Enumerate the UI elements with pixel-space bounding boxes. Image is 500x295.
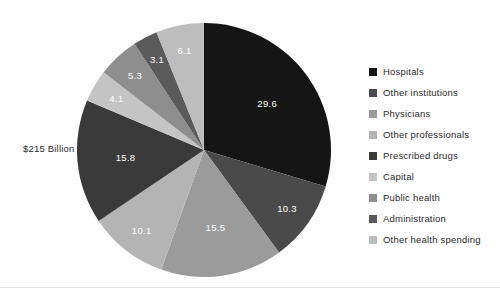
legend-item-label: Prescribed drugs xyxy=(383,150,458,161)
pie-slice-value: 3.1 xyxy=(150,54,164,65)
legend-swatch-icon xyxy=(369,215,377,223)
pie-slice-value: 5.3 xyxy=(128,70,142,81)
legend-item[interactable]: Hospitals xyxy=(369,61,497,82)
legend-swatch-icon xyxy=(369,194,377,202)
legend-item[interactable]: Prescribed drugs xyxy=(369,145,497,166)
legend-swatch-icon xyxy=(369,152,377,160)
total-callout: $215 Billion xyxy=(23,143,75,154)
legend-item[interactable]: Physicians xyxy=(369,103,497,124)
pie-slice-value: 6.1 xyxy=(178,45,192,56)
pie-slice-value: 10.3 xyxy=(277,203,297,214)
legend-item[interactable]: Capital xyxy=(369,166,497,187)
legend-swatch-icon xyxy=(369,68,377,76)
chart-canvas: 29.610.315.510.115.84.15.33.16.1 $215 Bi… xyxy=(0,0,500,295)
pie-slice-group xyxy=(77,23,331,277)
legend-swatch-icon xyxy=(369,173,377,181)
legend-swatch-icon xyxy=(369,131,377,139)
legend-item[interactable]: Other professionals xyxy=(369,124,497,145)
pie-slice-value: 15.8 xyxy=(116,152,136,163)
legend-swatch-icon xyxy=(369,89,377,97)
pie-slice-value: 15.5 xyxy=(206,222,226,233)
legend-item-label: Hospitals xyxy=(383,66,424,77)
legend-swatch-icon xyxy=(369,236,377,244)
legend-item[interactable]: Other health spending xyxy=(369,229,497,250)
legend-item-label: Physicians xyxy=(383,108,430,119)
legend-item[interactable]: Public health xyxy=(369,187,497,208)
legend-item-label: Public health xyxy=(383,192,440,203)
legend: HospitalsOther institutionsPhysiciansOth… xyxy=(369,61,497,250)
legend-item-label: Other health spending xyxy=(383,234,481,245)
legend-item[interactable]: Other institutions xyxy=(369,82,497,103)
pie-slice-value: 4.1 xyxy=(109,93,123,104)
pie-svg: 29.610.315.510.115.84.15.33.16.1 xyxy=(77,23,331,277)
pie-slice-value: 29.6 xyxy=(257,98,277,109)
legend-item[interactable]: Administration xyxy=(369,208,497,229)
legend-item-label: Administration xyxy=(383,213,446,224)
pie-slice-value: 10.1 xyxy=(132,225,152,236)
pie-chart: 29.610.315.510.115.84.15.33.16.1 xyxy=(77,23,331,277)
legend-item-label: Other professionals xyxy=(383,129,469,140)
legend-item-label: Capital xyxy=(383,171,414,182)
legend-swatch-icon xyxy=(369,110,377,118)
bottom-divider xyxy=(0,287,500,288)
legend-item-label: Other institutions xyxy=(383,87,458,98)
